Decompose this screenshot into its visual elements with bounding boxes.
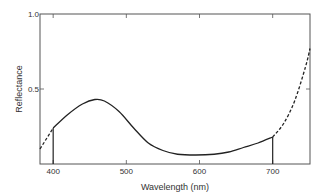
series-extrapolated-short [40, 128, 53, 149]
y-axis-label: Reflectance [14, 65, 24, 113]
x-tick-label: 500 [120, 167, 134, 176]
x-tick-label: 700 [266, 167, 280, 176]
y-tick-label: 1.0 [28, 10, 40, 19]
x-axis-label: Wavelength (nm) [141, 182, 209, 192]
x-tick-label: 600 [193, 167, 207, 176]
x-tick-label: 400 [46, 167, 60, 176]
plot-frame [40, 14, 310, 164]
series-extrapolated-long [273, 49, 310, 138]
y-tick-label: 0.5 [28, 85, 40, 94]
data-series [40, 49, 310, 156]
reflectance-chart: 4005006007000.51.0 Wavelength (nm) Refle… [0, 0, 326, 196]
series-measured [53, 99, 273, 155]
vertical-markers [53, 128, 273, 164]
axis-ticks: 4005006007000.51.0 [28, 10, 310, 176]
plot-border [40, 14, 310, 164]
